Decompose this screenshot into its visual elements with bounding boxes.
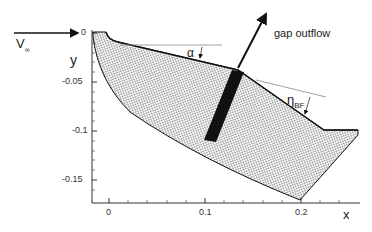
freestream-v: V — [16, 36, 25, 51]
mesh-region — [93, 32, 358, 200]
x-axis-label: x — [343, 207, 350, 222]
ytick-2: -0.1 — [72, 125, 88, 135]
xtick-2: 0.2 — [295, 207, 308, 217]
eta-label: ηBF — [287, 92, 304, 110]
alpha-label: α — [187, 46, 194, 60]
freestream-label: V∞ — [16, 36, 30, 53]
gap-outflow-label: gap outflow — [274, 27, 330, 39]
freestream-sub: ∞ — [25, 46, 30, 53]
eta-sub: BF — [294, 101, 304, 110]
y-axis-label: y — [70, 52, 77, 68]
ytick-1: -0.05 — [62, 76, 83, 86]
gap-outflow-arrow — [238, 14, 266, 68]
ytick-0: 0 — [81, 27, 86, 37]
xtick-0: 0 — [106, 207, 111, 217]
xtick-1: 0.1 — [199, 207, 212, 217]
ytick-3: -0.15 — [62, 174, 83, 184]
